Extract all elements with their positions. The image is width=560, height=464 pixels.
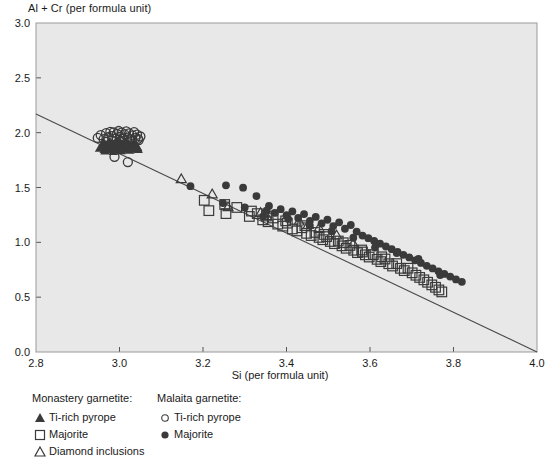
legend-item-label: Ti-rich pyrope: [174, 411, 241, 423]
y-tick-label: 1.0: [15, 236, 30, 248]
x-axis-label: Si (per formula unit): [0, 369, 560, 381]
open-triangle-icon: [32, 444, 49, 458]
legend-item-monastery-majorite[interactable]: Majorite: [32, 426, 144, 442]
figure: Al + Cr (per formula unit) 2.83.03.23.43…: [0, 0, 560, 464]
y-tick-label: 3.0: [15, 17, 30, 29]
x-tick-label: 3.8: [446, 357, 461, 369]
legend-item-label: Diamond inclusions: [49, 445, 144, 457]
legend-group-monastery: Monastery garnetite: Ti-rich pyrope Majo…: [32, 392, 144, 460]
x-tick-label: 3.2: [195, 357, 210, 369]
x-tick-label: 3.4: [279, 357, 294, 369]
legend-item-label: Majorite: [49, 428, 88, 440]
data-point-filled-circle: [222, 181, 230, 189]
legend: Monastery garnetite: Ti-rich pyrope Majo…: [0, 392, 560, 464]
data-point-filled-circle: [277, 205, 285, 213]
data-point-filled-circle: [241, 204, 249, 212]
legend-item-monastery-diamond-inclusions[interactable]: Diamond inclusions: [32, 443, 144, 459]
data-point-filled-circle: [219, 199, 227, 207]
open-square-icon: [32, 427, 49, 441]
data-point-filled-circle: [347, 221, 355, 229]
legend-group-title: Malaita garnetite:: [157, 392, 241, 404]
y-tick-label: 1.5: [15, 182, 30, 194]
plot-background: [36, 23, 537, 352]
data-point-filled-circle: [187, 182, 195, 190]
legend-item-label: Majorite: [174, 428, 213, 440]
open-circle-icon: [157, 410, 174, 424]
data-point-filled-circle: [458, 278, 466, 286]
legend-item-malaita-ti-rich-pyrope[interactable]: Ti-rich pyrope: [157, 409, 241, 425]
x-tick-label: 3.0: [112, 357, 127, 369]
data-point-filled-circle: [371, 244, 379, 252]
y-tick-label: 0.0: [15, 346, 30, 358]
legend-group-title: Monastery garnetite:: [32, 392, 144, 404]
y-tick-label: 0.5: [15, 291, 30, 303]
data-point-filled-circle: [253, 192, 261, 200]
x-tick-label: 2.8: [28, 357, 43, 369]
data-point-filled-circle: [239, 184, 247, 192]
x-tick-label: 4.0: [529, 357, 544, 369]
legend-item-monastery-ti-rich-pyrope[interactable]: Ti-rich pyrope: [32, 409, 144, 425]
data-point-filled-circle: [324, 216, 332, 224]
legend-group-malaita: Malaita garnetite: Ti-rich pyrope Majori…: [157, 392, 241, 443]
legend-item-malaita-majorite[interactable]: Majorite: [157, 426, 241, 442]
x-tick-label: 3.6: [362, 357, 377, 369]
data-point-filled-circle: [306, 222, 314, 230]
legend-item-label: Ti-rich pyrope: [49, 411, 116, 423]
data-point-filled-circle: [288, 208, 296, 216]
data-point-filled-circle: [415, 255, 423, 263]
filled-triangle-icon: [32, 410, 49, 424]
data-point-filled-circle: [312, 213, 320, 221]
y-tick-label: 2.5: [15, 72, 30, 84]
data-point-filled-circle: [335, 218, 343, 226]
data-point-filled-circle: [300, 210, 308, 218]
filled-circle-icon: [157, 427, 174, 441]
data-point-filled-circle: [436, 271, 444, 279]
data-point-filled-circle: [263, 207, 271, 215]
data-point-filled-circle: [284, 215, 292, 223]
data-point-filled-circle: [328, 227, 336, 235]
data-point-filled-circle: [393, 249, 401, 257]
y-tick-label: 2.0: [15, 127, 30, 139]
data-point-filled-circle: [349, 234, 357, 242]
